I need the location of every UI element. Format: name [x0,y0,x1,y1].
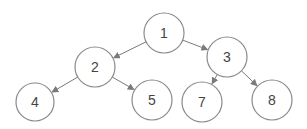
node-label: 7 [198,94,206,110]
arrow-line [212,74,217,83]
arrow-line [52,77,77,92]
tree-node-4: 4 [16,83,54,121]
tree-node-1: 1 [144,13,184,53]
arrow-line [241,71,256,86]
nodes-layer: 1234578 [16,13,292,122]
tree-node-8: 8 [252,80,292,120]
node-label: 3 [223,49,231,65]
tree-node-7: 7 [182,82,222,122]
node-label: 8 [268,92,276,108]
edge-2-to-5 [112,77,134,89]
tree-node-2: 2 [75,47,115,87]
arrow-line [183,40,208,49]
tree-svg: 1234578 [0,0,307,129]
edge-3-to-7 [212,74,217,83]
tree-diagram: 1234578 [0,0,307,129]
tree-node-3: 3 [207,37,247,77]
node-label: 4 [31,94,39,110]
tree-node-5: 5 [132,80,172,120]
arrow-line [112,77,134,89]
edge-3-to-8 [241,71,256,86]
edge-1-to-3 [183,40,208,49]
edge-1-to-2 [114,42,146,58]
node-label: 2 [91,59,99,75]
arrow-line [114,42,146,58]
node-label: 5 [148,92,156,108]
node-label: 1 [160,25,168,41]
edge-2-to-4 [52,77,77,92]
